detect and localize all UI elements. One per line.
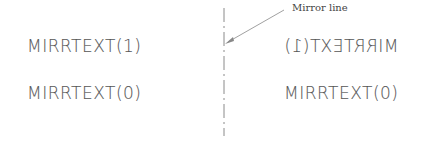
left-label-mirrtext-0: MIRRTEXT(0) [27, 85, 142, 102]
callout-leader [228, 10, 284, 42]
mirror-line-callout: Mirror line [292, 2, 348, 13]
arrowhead-icon [225, 37, 234, 44]
right-label-mirrtext-1-mirrored: MIRRTEXT(1) [284, 38, 399, 55]
mirror-line-graphic [0, 0, 442, 142]
mirrtext-diagram: Mirror line MIRRTEXT(1) MIRRTEXT(0) MIRR… [0, 0, 442, 142]
left-label-mirrtext-1: MIRRTEXT(1) [27, 38, 142, 55]
right-label-mirrtext-0: MIRRTEXT(0) [284, 85, 399, 102]
